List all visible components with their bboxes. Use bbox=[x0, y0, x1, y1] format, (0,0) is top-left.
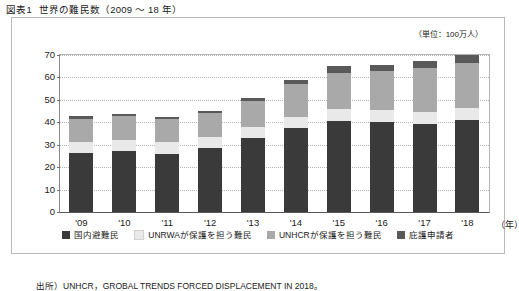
bar-segment-unhcr bbox=[370, 71, 394, 110]
y-tick-label-40: 40 bbox=[44, 118, 55, 128]
x-tick-label-09: '09 bbox=[75, 217, 87, 228]
x-tick-label-11: '11 bbox=[161, 217, 173, 228]
bar-column-12[interactable]: '12 bbox=[198, 55, 222, 212]
bar-segment-asylum bbox=[413, 61, 437, 68]
bar-segment-idp bbox=[284, 128, 308, 212]
figure-title-text: 世界の難民数（2009 ～ 18 年） bbox=[39, 4, 182, 15]
bar-segment-unhcr bbox=[241, 101, 265, 127]
bar-segment-idp bbox=[241, 138, 265, 212]
x-tick-label-10: '10 bbox=[118, 217, 130, 228]
bar-segment-unrwa bbox=[413, 112, 437, 124]
unit-label: （単位：100万人） bbox=[414, 28, 483, 39]
bar-segment-unhcr bbox=[455, 63, 479, 108]
bar-segment-unrwa bbox=[198, 137, 222, 148]
x-tick-label-16: '16 bbox=[375, 217, 387, 228]
legend-swatch-icon bbox=[397, 231, 405, 239]
legend-label: UNRWAが保護を担う難民 bbox=[148, 231, 252, 240]
bar-segment-idp bbox=[69, 153, 93, 212]
bar-segment-unhcr bbox=[413, 68, 437, 113]
bar-segment-idp bbox=[198, 148, 222, 212]
legend-item-0[interactable]: 国内避難民 bbox=[62, 231, 119, 240]
bar-column-13[interactable]: '13 bbox=[241, 55, 265, 212]
bar-segment-unhcr bbox=[327, 73, 351, 109]
legend-item-3[interactable]: 庇護申請者 bbox=[397, 231, 454, 240]
figure-title: 図表1世界の難民数（2009 ～ 18 年） bbox=[6, 2, 182, 16]
y-tick-mark-0 bbox=[57, 212, 60, 213]
bar-segment-unrwa bbox=[455, 108, 479, 120]
bar-column-10[interactable]: '10 bbox=[112, 55, 136, 212]
bar-segment-asylum bbox=[455, 55, 479, 63]
bar-segment-idp bbox=[413, 124, 437, 212]
bar-column-18[interactable]: '18 bbox=[455, 55, 479, 212]
x-tick-label-14: '14 bbox=[290, 217, 302, 228]
x-tick-label-13: '13 bbox=[247, 217, 259, 228]
chart-legend: 国内避難民UNRWAが保護を担う難民UNHCRが保護を担う難民庇護申請者 bbox=[12, 230, 504, 240]
figure-number: 図表1 bbox=[6, 4, 32, 15]
bar-series-group: '09'10'11'12'13'14'15'16'17'18 bbox=[60, 55, 489, 212]
bar-column-16[interactable]: '16 bbox=[370, 55, 394, 212]
y-tick-label-0: 0 bbox=[50, 207, 55, 217]
bar-segment-unhcr bbox=[284, 84, 308, 116]
bar-segment-unhcr bbox=[155, 119, 179, 142]
bar-segment-unrwa bbox=[370, 110, 394, 122]
plot-area: 010203040506070 '09'10'11'12'13'14'15'16… bbox=[59, 54, 490, 213]
bar-segment-unrwa bbox=[327, 109, 351, 121]
y-tick-label-60: 60 bbox=[44, 73, 55, 83]
bar-segment-idp bbox=[327, 121, 351, 213]
legend-swatch-icon bbox=[134, 230, 144, 240]
y-tick-label-50: 50 bbox=[44, 95, 55, 105]
bar-segment-idp bbox=[112, 151, 136, 212]
bar-segment-idp bbox=[155, 154, 179, 212]
bar-segment-idp bbox=[455, 120, 479, 212]
y-tick-label-10: 10 bbox=[44, 185, 55, 195]
legend-label: 国内避難民 bbox=[74, 231, 119, 240]
bar-column-15[interactable]: '15 bbox=[327, 55, 351, 212]
legend-swatch-icon bbox=[62, 231, 70, 239]
bar-segment-unrwa bbox=[69, 142, 93, 153]
bar-segment-unrwa bbox=[241, 127, 265, 138]
bar-segment-unrwa bbox=[112, 140, 136, 151]
x-tick-label-12: '12 bbox=[204, 217, 216, 228]
bar-column-09[interactable]: '09 bbox=[69, 55, 93, 212]
x-tick-label-18: '18 bbox=[461, 217, 473, 228]
bar-segment-unrwa bbox=[284, 117, 308, 128]
chart-frame: （単位：100万人） 010203040506070 '09'10'11'12'… bbox=[11, 17, 505, 254]
legend-label: 庇護申請者 bbox=[409, 231, 454, 240]
bar-column-17[interactable]: '17 bbox=[413, 55, 437, 212]
x-tick-label-15: '15 bbox=[333, 217, 345, 228]
bar-segment-asylum bbox=[327, 66, 351, 73]
legend-label: UNHCRが保護を担う難民 bbox=[279, 231, 382, 240]
bar-column-11[interactable]: '11 bbox=[155, 55, 179, 212]
y-tick-label-20: 20 bbox=[44, 162, 55, 172]
bar-segment-idp bbox=[370, 122, 394, 212]
bar-column-14[interactable]: '14 bbox=[284, 55, 308, 212]
bar-segment-unrwa bbox=[155, 142, 179, 153]
source-note: 出所）UNHCR，GROBAL TRENDS FORCED DISPLACEME… bbox=[36, 279, 323, 291]
y-tick-label-70: 70 bbox=[44, 50, 55, 60]
x-tick-label-17: '17 bbox=[418, 217, 430, 228]
y-tick-label-30: 30 bbox=[44, 140, 55, 150]
bar-segment-unhcr bbox=[112, 116, 136, 140]
legend-swatch-icon bbox=[267, 231, 275, 239]
legend-item-2[interactable]: UNHCRが保護を担う難民 bbox=[267, 231, 382, 240]
bar-segment-unhcr bbox=[198, 113, 222, 137]
legend-item-1[interactable]: UNRWAが保護を担う難民 bbox=[134, 230, 252, 240]
bar-segment-unhcr bbox=[69, 119, 93, 142]
